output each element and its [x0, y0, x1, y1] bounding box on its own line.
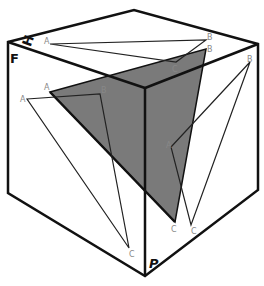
plane-label-f: F: [10, 51, 19, 66]
h-label-b: B: [207, 33, 213, 42]
space-label-c: C: [171, 225, 177, 234]
f-label-a: A: [20, 95, 26, 104]
cube-edge-top-left: [8, 42, 145, 88]
space-label-a: A: [44, 83, 50, 92]
p-label-a: A: [166, 141, 172, 150]
p-label-b: B: [247, 55, 253, 64]
p-label-c: C: [191, 227, 197, 236]
h-label-a: A: [44, 37, 50, 46]
f-label-b: B: [101, 86, 107, 95]
plane-label-p: P: [149, 256, 159, 271]
projection-cube-diagram: H F P A B C A B C A B C A B C: [0, 0, 264, 286]
f-label-c: C: [129, 250, 135, 259]
h-label-c: C: [172, 65, 178, 74]
spatial-triangle-abc: [50, 49, 206, 222]
space-label-b: B: [207, 45, 213, 54]
